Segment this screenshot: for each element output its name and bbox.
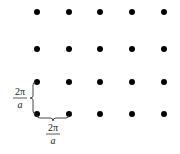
lattice-points xyxy=(34,9,167,117)
lattice-point xyxy=(161,111,167,117)
lattice-point xyxy=(34,9,40,15)
lattice-point xyxy=(129,111,135,117)
lattice-point xyxy=(129,9,135,15)
horizontal-label-denominator: a xyxy=(51,135,56,146)
lattice-point xyxy=(66,79,72,85)
vertical-label-denominator: a xyxy=(18,99,23,110)
lattice-point xyxy=(66,9,72,15)
lattice-point xyxy=(97,46,103,52)
lattice-point xyxy=(129,46,135,52)
vertical-brace xyxy=(30,82,36,114)
lattice-point xyxy=(66,46,72,52)
lattice-point xyxy=(161,46,167,52)
vertical-label-numerator: 2π xyxy=(15,86,25,97)
lattice-point xyxy=(161,79,167,85)
horizontal-label-numerator: 2π xyxy=(48,122,58,133)
lattice-point xyxy=(97,111,103,117)
lattice-diagram: 2π a 2π a xyxy=(0,0,180,154)
vertical-spacing-label: 2π a xyxy=(13,86,27,110)
lattice-point xyxy=(97,79,103,85)
horizontal-spacing-label: 2π a xyxy=(46,122,60,146)
horizontal-brace xyxy=(37,115,69,121)
lattice-point xyxy=(161,9,167,15)
lattice-point xyxy=(34,46,40,52)
lattice-point xyxy=(129,79,135,85)
lattice-point xyxy=(97,9,103,15)
